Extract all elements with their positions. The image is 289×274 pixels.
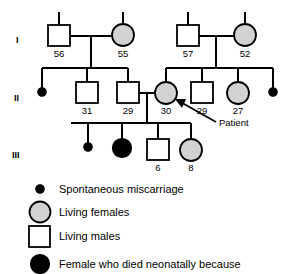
legend-living-males-square-icon	[29, 226, 50, 247]
individual-i-1-square	[48, 25, 70, 46]
individual-iii-1-miscarriage-dot	[84, 143, 92, 151]
age-label-iii-4: 8	[188, 162, 193, 173]
age-label-ii-4: 30	[161, 105, 172, 116]
patient-annotation-label: Patient	[219, 117, 249, 128]
individual-i-4-circle	[234, 24, 256, 46]
individual-ii-4-circle-patient	[155, 82, 177, 104]
individual-ii-1-miscarriage-dot	[38, 88, 46, 96]
age-label-i-2: 55	[118, 48, 129, 59]
age-label-ii-2: 31	[82, 105, 93, 116]
age-label-ii-6: 27	[233, 105, 244, 116]
individual-ii-7-miscarriage-dot	[269, 88, 277, 96]
individual-iii-3-square	[147, 139, 169, 160]
individual-ii-2-square	[76, 82, 98, 103]
legend-label-living-males: Living males	[59, 230, 121, 242]
age-label-i-4: 52	[240, 48, 251, 59]
legend-label-living-females: Living females	[59, 206, 130, 218]
legend-label-miscarriage: Spontaneous miscarriage	[59, 183, 184, 195]
age-label-iii-3: 6	[155, 162, 160, 173]
individual-i-2-circle	[112, 24, 134, 46]
legend-label-died-neonatally: Female who died neonatally because	[59, 258, 241, 270]
generation-label-iii: III	[12, 150, 20, 160]
individual-ii-6-circle	[227, 82, 249, 104]
age-label-ii-3: 29	[123, 105, 134, 116]
legend-died-neonatally-circle-icon	[31, 255, 50, 274]
age-label-i-3: 57	[183, 48, 194, 59]
individual-iii-2-circle-affected	[113, 139, 132, 158]
age-label-i-1: 56	[54, 48, 65, 59]
legend-miscarriage-dot-icon	[36, 185, 44, 193]
generation-label-i: I	[16, 35, 19, 45]
individual-iii-4-circle	[180, 139, 202, 161]
pedigree-diagram: I II III 56 55 57 52	[0, 0, 289, 274]
legend-living-females-circle-icon	[30, 202, 51, 223]
pedigree-figure: I II III 56 55 57 52	[0, 0, 289, 274]
individual-i-3-square	[177, 25, 199, 46]
generation-label-ii: II	[14, 93, 19, 103]
individual-ii-3-square	[117, 82, 139, 103]
individual-ii-5-square	[191, 82, 213, 103]
